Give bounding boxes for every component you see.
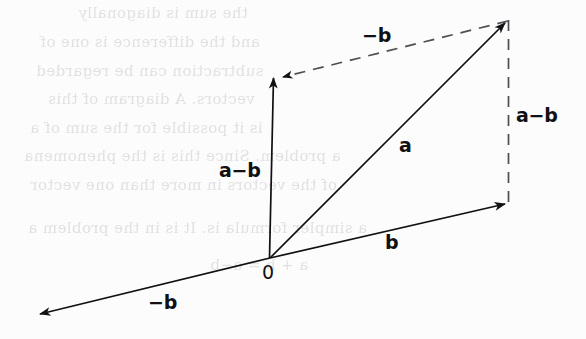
label-origin: 0 <box>262 261 274 283</box>
label-vector-a: a <box>399 134 412 156</box>
vector-a-minus-b-left-line <box>270 78 274 258</box>
label-vector-b: b <box>385 231 398 253</box>
vector-minus-b-upper-line <box>283 21 508 77</box>
vector-diagram-canvas <box>0 0 586 339</box>
vector-diagram-figure: the sum is diagonally and the difference… <box>0 0 586 339</box>
vector-a-line <box>270 23 505 258</box>
label-vector-minus-b-lower: −b <box>148 291 177 313</box>
label-vector-a-minus-b-left: a−b <box>219 159 261 181</box>
label-vector-minus-b-upper: −b <box>362 24 391 46</box>
label-vector-a-minus-b-right: a−b <box>516 104 558 126</box>
